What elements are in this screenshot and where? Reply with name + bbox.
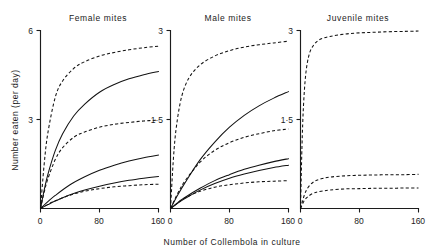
figure-container: Female mites Male mites Juvenile mites N… <box>0 0 434 252</box>
juvenile-curve-1 <box>301 31 419 208</box>
panel-female-ylabel-mid: 3 <box>28 115 33 125</box>
panel-female-xlabel-80: 80 <box>94 216 104 226</box>
panel-juvenile-xlabel-80: 80 <box>354 216 364 226</box>
panel-female-ylabel-top: 6 <box>28 26 33 36</box>
panel-juvenile-xlabel-0: 0 <box>298 216 303 226</box>
panel-title-juvenile: Juvenile mites <box>327 13 389 23</box>
panel-male-ylabel-top: 3 <box>158 26 163 36</box>
panel-male-ylabel-mid: 1·5 <box>151 115 164 125</box>
male-curve-1 <box>171 41 289 208</box>
panel-female-xlabel-0: 0 <box>38 216 43 226</box>
female-curve-6 <box>41 184 159 208</box>
panel-male-axes <box>171 31 289 209</box>
panel-juvenile-xlabel-160: 160 <box>411 216 425 226</box>
panel-female-axes <box>41 31 159 209</box>
male-curve-5 <box>171 165 289 208</box>
y-axis-title: Number eaten (per day) <box>10 69 20 170</box>
x-axis-title: Number of Collembola in culture <box>164 237 301 247</box>
panel-female-curves <box>41 46 159 208</box>
panel-juvenile-axes <box>301 31 419 209</box>
panel-female-xlabel-160: 160 <box>151 216 165 226</box>
panel-juvenile: 3 1·5 0 80 160 <box>281 26 426 226</box>
panel-male-xlabel-160: 160 <box>281 216 295 226</box>
panel-male-xlabel-80: 80 <box>224 216 234 226</box>
panel-male-curves <box>171 41 289 208</box>
juvenile-curve-3 <box>301 188 419 208</box>
female-curve-4 <box>41 155 159 208</box>
multi-panel-response-chart: Female mites Male mites Juvenile mites N… <box>0 0 434 252</box>
panel-juvenile-ylabel-top: 3 <box>288 26 293 36</box>
panel-title-male: Male mites <box>204 13 251 23</box>
male-curve-6 <box>171 181 289 209</box>
male-curve-2 <box>171 92 289 209</box>
panel-male: 3 1·5 0 80 160 <box>151 26 296 226</box>
female-curve-3 <box>41 120 159 208</box>
male-curve-4 <box>171 159 289 209</box>
female-curve-5 <box>41 176 159 208</box>
panel-juvenile-curves <box>301 31 419 208</box>
panel-title-female: Female mites <box>69 13 127 23</box>
panel-male-xlabel-0: 0 <box>168 216 173 226</box>
female-curve-2 <box>41 71 159 208</box>
panel-female: 6 3 0 80 160 <box>28 26 165 226</box>
panel-juvenile-ylabel-mid: 1·5 <box>281 115 294 125</box>
juvenile-curve-2 <box>301 174 419 208</box>
